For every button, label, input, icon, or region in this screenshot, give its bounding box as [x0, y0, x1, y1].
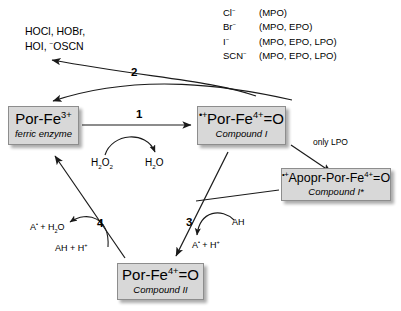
node-compound-ii-caption: Compound II	[133, 285, 187, 295]
label-a-radical-water-step-4: A• + H2O	[30, 222, 65, 232]
label-a-radical-proton-step-3: A• + H+	[192, 240, 220, 250]
label-halide-substrates: Cl−(MPO)Br−(MPO, EPO)I−(MPO, EPO, LPO)SC…	[223, 6, 337, 64]
node-compound-i-star-formula: •+Apopr-Por-Fe4+=O	[282, 172, 390, 186]
label-ah-proton-step-4: AH + H+	[55, 243, 88, 253]
node-compound-i[interactable]: •+Por-Fe4+=O Compound I	[197, 106, 286, 145]
halide-ion: Br−	[223, 20, 259, 34]
arrow-step-3-cofactor	[197, 213, 234, 235]
arrow-step-1-cofactor	[105, 137, 155, 155]
label-products-line-2: HOI, −OSCN	[25, 39, 85, 54]
label-ah-step-3: AH	[232, 217, 245, 227]
halide-enzymes: (MPO, EPO, LPO)	[259, 50, 337, 61]
peroxidase-cycle-diagram: Por-Fe3+ ferric enzyme •+Por-Fe4+=O Comp…	[0, 0, 401, 311]
halide-row: I−(MPO, EPO, LPO)	[223, 35, 337, 49]
step-number-2: 2	[131, 66, 137, 78]
halide-row: SCN−(MPO, EPO, LPO)	[223, 49, 337, 63]
label-only-lpo: only LPO	[313, 137, 348, 147]
halide-row: Br−(MPO, EPO)	[223, 20, 337, 34]
node-compound-i-star-caption: Compound I*	[308, 187, 363, 197]
halide-ion: I−	[223, 35, 259, 49]
label-oxidized-products: HOCl, HOBr, HOI, −OSCN	[25, 24, 85, 54]
step-number-3: 3	[186, 216, 192, 228]
step-number-1: 1	[136, 108, 142, 120]
node-compound-i-star[interactable]: •+Apopr-Por-Fe4+=O Compound I*	[281, 168, 391, 201]
arrow-step-2-substrate-in	[52, 60, 256, 96]
node-ferric-enzyme[interactable]: Por-Fe3+ ferric enzyme	[8, 106, 79, 145]
node-compound-i-formula: •+Por-Fe4+=O	[199, 111, 284, 127]
halide-ion: Cl−	[223, 6, 259, 20]
halide-row: Cl−(MPO)	[223, 6, 337, 20]
arrow-step-2-product-out	[53, 84, 292, 101]
label-products-line-1: HOCl, HOBr,	[25, 24, 85, 39]
node-ferric-formula: Por-Fe3+	[15, 111, 71, 127]
label-water: H2O	[145, 157, 163, 168]
node-compound-i-caption: Compound I	[216, 129, 268, 139]
halide-ion: SCN−	[223, 49, 259, 63]
node-ferric-caption: ferric enzyme	[15, 129, 72, 139]
node-compound-ii[interactable]: Por-Fe4+=O Compound II	[117, 263, 204, 300]
step-number-4: 4	[97, 217, 103, 229]
halide-enzymes: (MPO)	[259, 7, 287, 18]
halide-enzymes: (MPO, EPO)	[259, 21, 312, 32]
label-hydrogen-peroxide: H2O2	[91, 157, 113, 168]
node-compound-ii-formula: Por-Fe4+=O	[122, 267, 199, 283]
halide-enzymes: (MPO, EPO, LPO)	[259, 36, 337, 47]
